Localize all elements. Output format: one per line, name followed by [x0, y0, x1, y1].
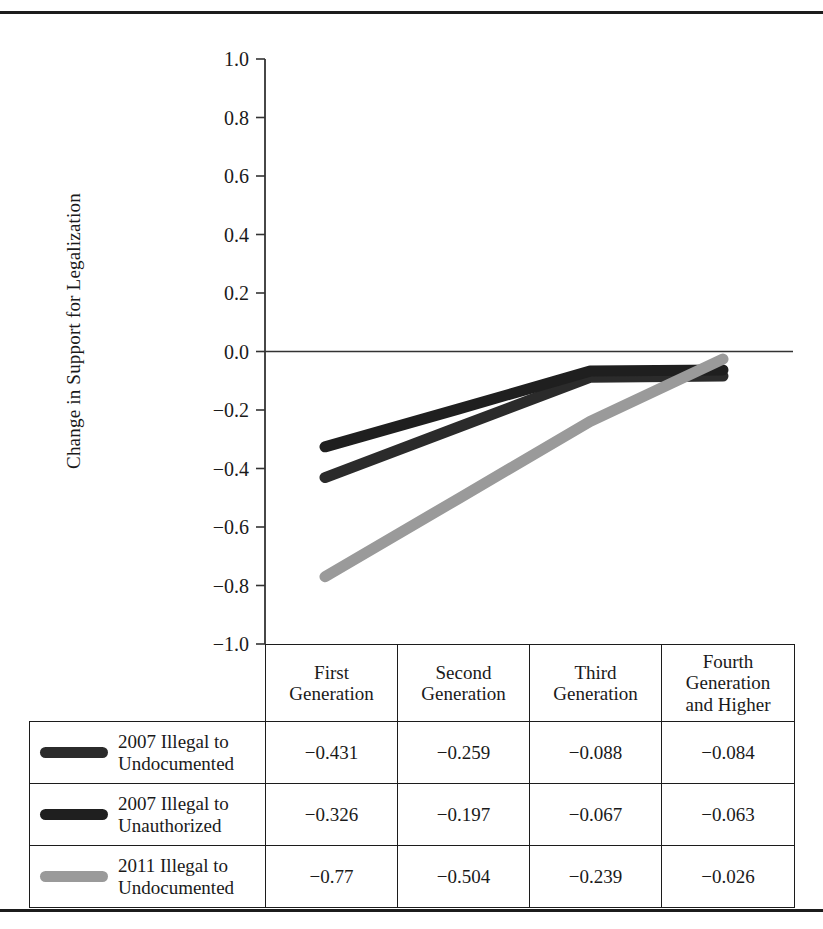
table-cell-value: −0.431 — [266, 722, 398, 784]
y-axis-tick-label: 0.8 — [224, 107, 249, 129]
table-cell-value: −0.239 — [530, 846, 662, 908]
y-axis-tick-label: −0.4 — [213, 458, 249, 480]
table-column-header: FirstGeneration — [266, 645, 398, 722]
y-axis-tick-label: −0.6 — [213, 516, 249, 538]
y-axis-tick-label: 0.0 — [224, 341, 249, 363]
y-axis-title: Change in Support for Legalization — [63, 131, 85, 531]
chart-plot-area: Change in Support for Legalization 1.00.… — [0, 20, 823, 660]
legend-label: 2011 Illegal toUndocumented — [118, 855, 234, 899]
table-cell-value: −0.026 — [662, 846, 795, 908]
legend-swatch-icon — [40, 809, 108, 820]
data-table: FirstGenerationSecondGenerationThirdGene… — [29, 644, 795, 908]
table-row: 2011 Illegal toUndocumented−0.77−0.504−0… — [30, 846, 795, 908]
top-rule — [0, 11, 823, 14]
table-cell-value: −0.088 — [530, 722, 662, 784]
legend-label: 2007 Illegal toUnauthorized — [118, 793, 229, 837]
y-axis-tick-label: 1.0 — [224, 48, 249, 70]
table-cell-value: −0.197 — [398, 784, 530, 846]
bottom-rule — [0, 909, 823, 912]
chart-svg: 1.00.80.60.40.20.0−0.2−0.4−0.6−0.8−1.0 — [0, 20, 823, 660]
data-table-wrapper: FirstGenerationSecondGenerationThirdGene… — [29, 644, 794, 908]
legend-label: 2007 Illegal toUndocumented — [118, 731, 234, 775]
table-body: 2007 Illegal toUndocumented−0.431−0.259−… — [30, 722, 795, 908]
table-column-header: FourthGenerationand Higher — [662, 645, 795, 722]
table-column-header: ThirdGeneration — [530, 645, 662, 722]
table-row: 2007 Illegal toUndocumented−0.431−0.259−… — [30, 722, 795, 784]
y-axis-tick-label: 0.6 — [224, 165, 249, 187]
table-column-header: SecondGeneration — [398, 645, 530, 722]
legend-cell: 2007 Illegal toUndocumented — [30, 722, 266, 784]
legend-cell: 2011 Illegal toUndocumented — [30, 846, 266, 908]
table-header-row: FirstGenerationSecondGenerationThirdGene… — [30, 645, 795, 722]
y-axis-tick-label: 0.2 — [224, 282, 249, 304]
table-cell-value: −0.084 — [662, 722, 795, 784]
table-cell-value: −0.259 — [398, 722, 530, 784]
table-cell-value: −0.326 — [266, 784, 398, 846]
legend-swatch-icon — [40, 747, 108, 758]
table-cell-value: −0.063 — [662, 784, 795, 846]
legend-cell: 2007 Illegal toUnauthorized — [30, 784, 266, 846]
y-axis-tick-label: −0.2 — [213, 399, 249, 421]
y-axis-tick-label: 0.4 — [224, 224, 249, 246]
table-row: 2007 Illegal toUnauthorized−0.326−0.197−… — [30, 784, 795, 846]
table-corner-cell — [30, 645, 266, 722]
table-cell-value: −0.504 — [398, 846, 530, 908]
legend-swatch-icon — [40, 871, 108, 882]
table-cell-value: −0.067 — [530, 784, 662, 846]
table-cell-value: −0.77 — [266, 846, 398, 908]
y-axis-tick-label: −0.8 — [213, 575, 249, 597]
